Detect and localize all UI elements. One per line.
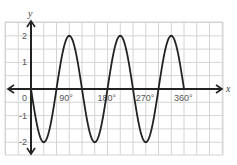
axes: x y <box>8 8 231 154</box>
x-tick-label: 90° <box>59 93 73 103</box>
x-tick-label: 360° <box>174 93 193 103</box>
x-axis-label: x <box>225 83 231 94</box>
x-tick-label: 270° <box>136 93 155 103</box>
y-tick-label: 1 <box>22 57 27 67</box>
y-axis-label: y <box>27 8 33 19</box>
y-tick-label: 2 <box>22 31 27 41</box>
y-tick-label: -2 <box>19 137 27 147</box>
x-tick-label: 0 <box>22 93 27 103</box>
y-tick-label: -1 <box>19 111 27 121</box>
sine-chart: x y 090°180°270°360°21-1-2 <box>0 0 237 165</box>
